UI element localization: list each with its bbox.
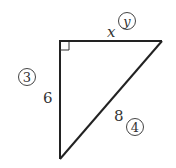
marker-4-text: 4 — [131, 120, 139, 135]
right-angle-marker — [60, 42, 69, 50]
label-hypotenuse: 8 — [114, 107, 124, 125]
triangle-figure: x y 3 6 8 4 — [0, 0, 176, 168]
marker-y-text: y — [122, 14, 131, 29]
side-hypotenuse — [60, 41, 162, 159]
label-top-side: x — [107, 23, 116, 41]
marker-3-text: 3 — [23, 70, 31, 85]
label-left-side: 6 — [43, 89, 53, 107]
